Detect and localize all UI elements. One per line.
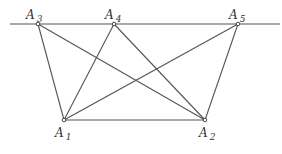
label-a2: A2	[198, 126, 216, 142]
geometry-diagram: A1A2A3A4A5	[0, 0, 282, 154]
segment-a1-a5	[64, 24, 238, 120]
segment-a2-a4	[114, 24, 205, 120]
labels-group: A1A2A3A4A5	[25, 8, 246, 142]
segment-a2-a5	[205, 24, 238, 120]
segments-group	[38, 24, 238, 120]
segment-a1-a3	[38, 24, 64, 120]
point-a1	[62, 118, 66, 122]
point-a2	[203, 118, 207, 122]
label-a1: A1	[54, 126, 71, 142]
label-a4: A4	[104, 8, 122, 24]
label-a5: A5	[228, 8, 246, 24]
segment-a2-a3	[38, 24, 205, 120]
label-a3: A3	[25, 8, 43, 24]
